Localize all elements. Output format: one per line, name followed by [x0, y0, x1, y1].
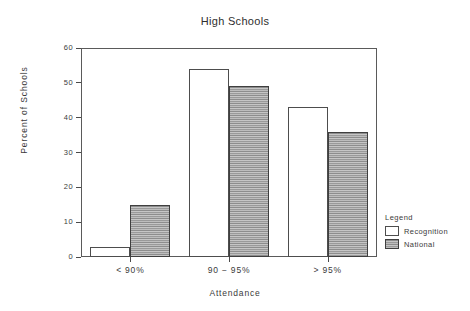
y-axis-tick: [76, 117, 81, 118]
legend-swatch-recognition-icon: [385, 226, 399, 236]
bar-recognition: [90, 247, 130, 257]
y-axis-tick-label: 0: [43, 252, 73, 261]
bar-recognition: [189, 69, 229, 257]
y-axis-tick: [76, 152, 81, 153]
x-axis-tick-label: < 90%: [80, 265, 180, 275]
legend-swatch-national-icon: [385, 239, 399, 249]
bar-national: [328, 132, 368, 257]
y-axis-tick: [76, 187, 81, 188]
chart-legend: Legend Recognition National: [385, 213, 469, 252]
x-axis-tick: [328, 257, 329, 262]
y-axis-tick: [76, 48, 81, 49]
y-axis-tick: [76, 257, 81, 258]
legend-item-recognition[interactable]: Recognition: [385, 226, 469, 236]
y-axis-tick-label: 50: [43, 78, 73, 87]
y-axis-title: Percent of Schools: [19, 50, 29, 170]
y-axis-tick-label: 30: [43, 148, 73, 157]
legend-title: Legend: [385, 213, 469, 222]
y-axis-tick: [76, 222, 81, 223]
x-axis-tick: [229, 257, 230, 262]
y-axis-tick-label: 10: [43, 217, 73, 226]
x-axis-tick: [130, 257, 131, 262]
bar-national: [229, 86, 269, 257]
y-axis-tick-label: 20: [43, 182, 73, 191]
chart-title: High Schools: [0, 15, 470, 27]
y-axis-tick-label: 40: [43, 113, 73, 122]
legend-label-recognition: Recognition: [404, 227, 448, 236]
y-axis-tick-label: 60: [43, 43, 73, 52]
y-axis-tick: [76, 82, 81, 83]
legend-label-national: National: [404, 240, 435, 249]
x-axis-title: Attendance: [0, 288, 470, 298]
chart-figure: High Schools Percent of Schools Attendan…: [0, 0, 470, 311]
x-axis-tick-label: > 95%: [278, 265, 378, 275]
bar-recognition: [288, 107, 328, 257]
x-axis-tick-label: 90 − 95%: [179, 265, 279, 275]
bar-national: [130, 205, 170, 257]
legend-item-national[interactable]: National: [385, 239, 469, 249]
